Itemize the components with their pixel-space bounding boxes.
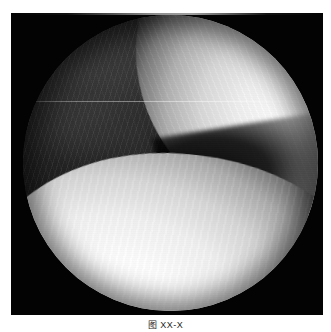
figure-page: 图 XX-X xyxy=(0,0,331,332)
figure-caption: 图 XX-X xyxy=(0,320,331,331)
image-plate xyxy=(11,13,323,315)
scan-line-artifact xyxy=(23,101,318,102)
endoscope-field-of-view xyxy=(23,15,318,311)
